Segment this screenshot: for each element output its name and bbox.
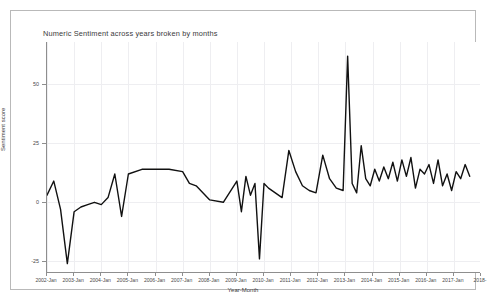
y-tick-mark: [42, 143, 46, 144]
x-tick-mark: [263, 273, 264, 276]
y-tick-label: 25: [21, 140, 39, 146]
x-tick-mark: [209, 273, 210, 276]
x-tick-mark: [155, 273, 156, 276]
x-tick-label: 2006-Jan: [144, 277, 165, 283]
x-tick-label: 2013-Jan: [334, 277, 355, 283]
x-axis-label: Year-Month: [11, 287, 475, 293]
x-tick-label: 2009-Jan: [225, 277, 246, 283]
x-tick-label: 2018-: [473, 277, 486, 283]
y-axis-label: Sentiment score: [0, 108, 6, 151]
x-tick-label: 2012-Jan: [307, 277, 328, 283]
y-tick-mark: [42, 202, 46, 203]
chart-title: Numeric Sentiment across years broken by…: [43, 29, 218, 38]
y-tick-mark: [42, 261, 46, 262]
x-tick-mark: [480, 273, 481, 276]
y-tick-mark: [42, 84, 46, 85]
x-tick-mark: [236, 273, 237, 276]
x-tick-mark: [127, 273, 128, 276]
x-tick-mark: [317, 273, 318, 276]
sentiment-line-series: [47, 42, 481, 273]
x-tick-label: 2014-Jan: [361, 277, 382, 283]
x-tick-mark: [182, 273, 183, 276]
x-tick-mark: [344, 273, 345, 276]
x-tick-label: 2003-Jan: [63, 277, 84, 283]
x-tick-mark: [73, 273, 74, 276]
chart-window: Numeric Sentiment across years broken by…: [10, 10, 476, 290]
x-tick-mark: [100, 273, 101, 276]
y-tick-label: 50: [21, 81, 39, 87]
x-tick-label: 2004-Jan: [90, 277, 111, 283]
x-tick-label: 2002-Jan: [35, 277, 56, 283]
x-tick-label: 2015-Jan: [388, 277, 409, 283]
y-tick-label: 0: [21, 199, 39, 205]
x-tick-label: 2017-Jan: [442, 277, 463, 283]
x-tick-mark: [290, 273, 291, 276]
x-tick-label: 2008-Jan: [198, 277, 219, 283]
x-tick-label: 2016-Jan: [415, 277, 436, 283]
x-tick-mark: [453, 273, 454, 276]
x-tick-mark: [399, 273, 400, 276]
x-tick-label: 2007-Jan: [171, 277, 192, 283]
x-tick-label: 2011-Jan: [280, 277, 301, 283]
x-tick-mark: [372, 273, 373, 276]
x-tick-label: 2005-Jan: [117, 277, 138, 283]
x-tick-mark: [426, 273, 427, 276]
y-tick-label: -25: [21, 258, 39, 264]
plot-area: [46, 42, 480, 273]
x-tick-label: 2010-Jan: [252, 277, 273, 283]
x-tick-mark: [46, 273, 47, 276]
